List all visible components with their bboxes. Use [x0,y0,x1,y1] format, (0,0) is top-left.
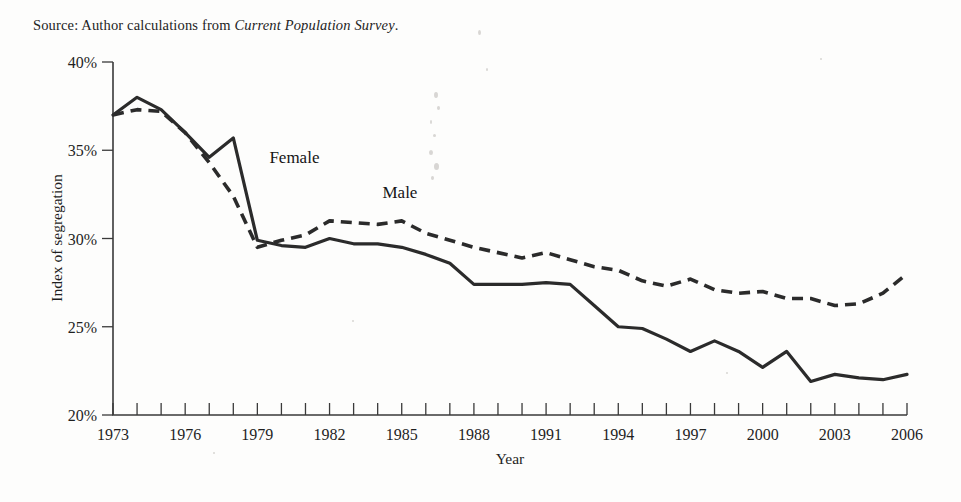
scan-speck [486,68,488,71]
x-tick-label: 2006 [891,426,923,443]
scan-speck [437,106,440,110]
scan-speck [430,120,432,124]
series-label-male: Male [382,183,417,202]
series-labels: FemaleMale [269,148,417,202]
series-label-female: Female [269,148,319,167]
y-axis: 40%35%30%25%20% [68,54,113,424]
x-tick-label: 2000 [747,426,779,443]
x-axis: 1973197619791982198519881991199419972000… [97,403,923,443]
scan-speck [352,320,354,322]
x-tick-label: 1979 [241,426,273,443]
series-line-female [113,97,907,381]
scan-speck [213,452,215,454]
x-tick-label: 1976 [169,426,201,443]
y-tick-label: 35% [68,142,97,159]
scanned-chart-page: Source: Author calculations from Current… [0,0,961,502]
x-tick-label: 1973 [97,426,129,443]
x-tick-label: 1991 [530,426,562,443]
scan-speck [429,150,433,155]
x-axis-title: Year [496,450,525,467]
x-tick-label: 1988 [458,426,490,443]
y-axis-title: Index of segregation [48,174,65,302]
x-tick-label: 1994 [602,426,634,443]
y-tick-label: 25% [68,319,97,336]
y-tick-label: 20% [68,407,97,424]
y-tick-label: 40% [68,54,97,71]
chart-svg: 40%35%30%25%20% 197319761979198219851988… [0,0,961,502]
x-tick-label: 1985 [386,426,418,443]
x-tick-label: 2003 [819,426,851,443]
data-series-group [113,97,907,381]
x-tick-label: 1982 [314,426,346,443]
x-tick-label: 1997 [674,426,706,443]
scan-speck [431,176,434,180]
axis-frame [113,62,907,415]
scan-speck [820,58,822,60]
scan-speck [433,134,436,137]
scan-speck [434,92,438,98]
scan-speck [434,163,439,170]
scan-speck [726,372,728,374]
y-tick-label: 30% [68,231,97,248]
segregation-index-line-chart: 40%35%30%25%20% 197319761979198219851988… [0,0,961,502]
scan-speck [478,30,481,35]
